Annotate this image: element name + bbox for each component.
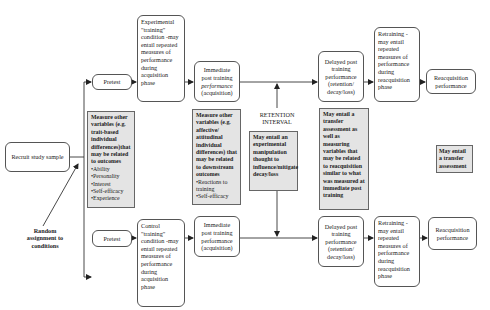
list-item: Interest <box>91 181 131 188</box>
retention-manipulation-text: May entail an experimental manipulation … <box>253 134 298 177</box>
experimental-delayed-text: Delayed post training performance (reten… <box>322 58 360 96</box>
control-condition-box: Control "training" condition -may entail… <box>137 219 185 307</box>
posttest-measures-list: Reactions to training Self-efficacy <box>196 179 237 201</box>
pretest-measures-list: Ability Personality Interest Self-effica… <box>91 166 131 203</box>
experimental-condition-box: Experimental "training" condition -may e… <box>137 15 185 102</box>
posttest-measures-note: Measure other variables (e.g. affective/… <box>192 109 241 205</box>
control-retraining-box: Retraining -may entail repeated measures… <box>374 216 420 287</box>
random-assignment-label: Random assignment to conditions <box>22 227 68 249</box>
pretest-measures-text: Measure other variables (e.g. trait-base… <box>91 114 131 166</box>
control-immediate-box: Immediate post training performance (acq… <box>194 216 240 257</box>
experimental-pretest-text: Pretest <box>104 78 121 86</box>
experimental-pretest-box: Pretest <box>92 74 132 90</box>
list-item: Ability <box>91 166 131 173</box>
experimental-immediate-box: Immediate post training performance (acq… <box>194 61 240 102</box>
recruit-sample-text: Recruit study sample <box>11 153 63 161</box>
list-item: Personality <box>91 173 131 180</box>
list-item: Reactions to training <box>196 179 237 194</box>
experimental-delayed-box: Delayed post training performance (reten… <box>318 51 364 102</box>
posttest-measures-text: Measure other variables (e.g. affective/… <box>196 112 237 179</box>
experimental-immediate-text: Immediate post training performance (acq… <box>198 66 236 96</box>
control-delayed-box: Delayed post training performance (reten… <box>318 216 364 267</box>
list-item: Self-efficacy <box>196 193 237 200</box>
delayed-transfer-text: May entail a transfer assessment as well… <box>323 111 365 198</box>
list-item: Experience <box>91 195 131 202</box>
control-pretest-box: Pretest <box>92 230 132 247</box>
delayed-transfer-note: May entail a transfer assessment as well… <box>319 108 369 210</box>
control-pretest-text: Pretest <box>104 235 121 243</box>
retention-interval-label: RETENTION INTERVAL <box>248 111 306 126</box>
control-condition-text: Control "training" condition -may entail… <box>141 222 179 290</box>
experimental-retraining-box: Retraining -may entail repeated measures… <box>374 27 420 102</box>
control-retraining-text: Retraining -may entail repeated measures… <box>378 219 410 279</box>
control-reacquisition-text: Reacquisition performance <box>432 226 473 241</box>
reacquisition-transfer-note: May entail a transfer assessment <box>436 145 473 173</box>
experimental-reacquisition-text: Reacquisition performance <box>430 74 472 89</box>
list-item: Self-efficacy <box>91 188 131 195</box>
control-delayed-text: Delayed post training performance (reten… <box>322 223 360 261</box>
experimental-retraining-text: Retraining -may entail repeated measures… <box>378 30 410 90</box>
control-reacquisition-box: Reacquisition performance <box>428 217 477 250</box>
pretest-measures-note: Measure other variables (e.g. trait-base… <box>87 111 135 208</box>
retention-manipulation-note: May entail an experimental manipulation … <box>249 131 298 191</box>
reacquisition-transfer-text: May entail a transfer assessment <box>439 148 467 169</box>
recruit-sample-box: Recruit study sample <box>5 142 70 172</box>
experimental-reacquisition-box: Reacquisition performance <box>426 69 476 94</box>
control-immediate-text: Immediate post training performance (acq… <box>198 221 236 251</box>
experimental-condition-text: Experimental "training" condition -may e… <box>141 18 179 86</box>
